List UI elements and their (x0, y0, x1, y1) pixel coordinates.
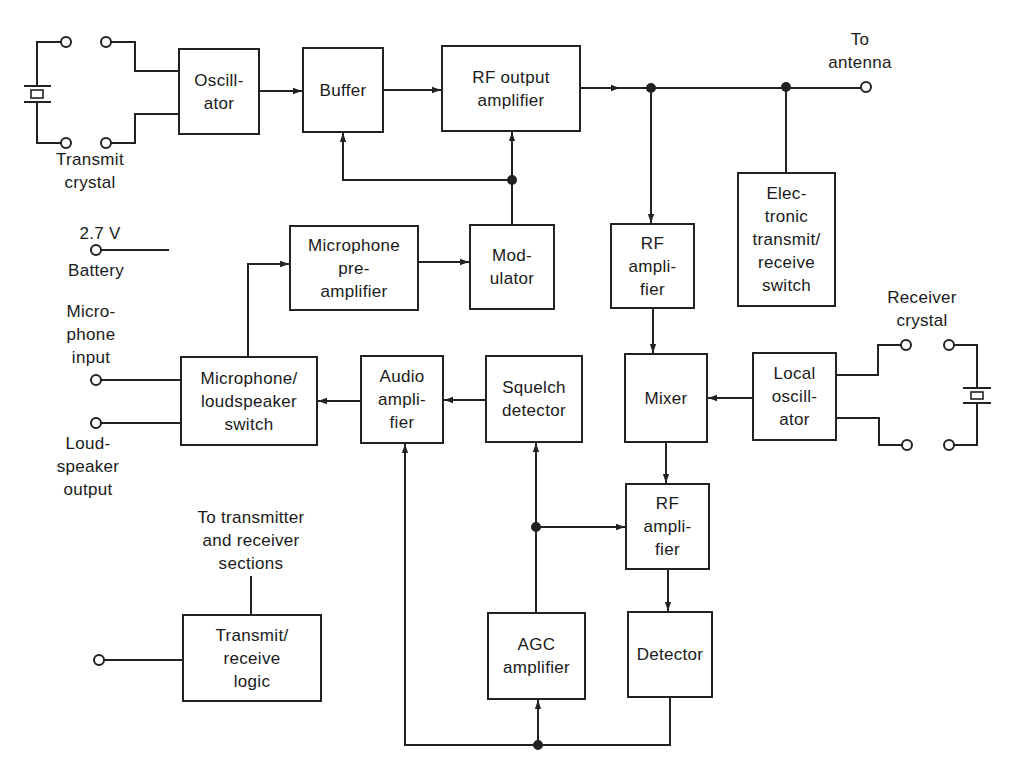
battery-terminal-icon (91, 245, 101, 255)
battery-label: Battery (50, 259, 142, 282)
loudspeaker-output-label: Loud- speaker output (42, 432, 134, 501)
mic-preamp-block: Microphone pre- amplifier (289, 225, 419, 311)
oscillator-block: Oscill- ator (178, 48, 260, 135)
to-sections-label: To transmitter and receiver sections (176, 506, 326, 575)
agc-amplifier-block: AGC amplifier (487, 612, 586, 700)
squelch-detector-block: Squelch detector (485, 355, 583, 443)
audio-amplifier-label: Audio ampli- fier (378, 365, 426, 434)
receiver-crystal-label: Receiver crystal (872, 286, 972, 332)
battery-voltage-label: 2.7 V (60, 222, 140, 245)
local-oscillator-label: Local oscill- ator (772, 362, 818, 431)
rf-amplifier-1-label: RF ampli- fier (628, 232, 676, 301)
oscillator-label: Oscill- ator (194, 69, 243, 115)
rf-amplifier-2-label: RF ampli- fier (643, 492, 691, 561)
agc-amplifier-label: AGC amplifier (503, 633, 570, 679)
audio-amplifier-block: Audio ampli- fier (360, 355, 444, 444)
microphone-input-label: Micro- phone input (45, 300, 137, 369)
rf-amplifier-2-block: RF ampli- fier (625, 483, 710, 570)
transmit-crystal-icon (24, 37, 178, 148)
loudspeaker-output-terminal-icon (91, 418, 101, 428)
detector-label: Detector (637, 643, 704, 666)
squelch-detector-label: Squelch detector (502, 376, 566, 422)
tr-logic-input-terminal-icon (94, 655, 104, 665)
mixer-block: Mixer (624, 353, 708, 443)
rf-amplifier-1-block: RF ampli- fier (610, 223, 695, 309)
buffer-block: Buffer (302, 47, 384, 133)
modulator-label: Mod- ulator (490, 244, 534, 290)
mic-preamp-label: Microphone pre- amplifier (308, 234, 400, 303)
tr-logic-label: Transmit/ receive logic (216, 624, 289, 693)
receiver-crystal-icon (837, 340, 991, 450)
rf-output-amplifier-label: RF output amplifier (472, 66, 549, 112)
antenna-terminal-icon (861, 82, 871, 92)
mixer-label: Mixer (644, 387, 687, 410)
transmit-crystal-label: Transmit crystal (40, 148, 140, 194)
tr-logic-block: Transmit/ receive logic (182, 614, 322, 702)
buffer-label: Buffer (320, 79, 367, 102)
detector-block: Detector (627, 611, 713, 698)
to-antenna-label: To antenna (810, 28, 910, 74)
electronic-tr-switch-block: Elec- tronic transmit/ receive switch (737, 172, 836, 307)
rf-output-amplifier-block: RF output amplifier (441, 45, 581, 132)
microphone-input-terminal-icon (91, 375, 101, 385)
local-oscillator-block: Local oscill- ator (752, 352, 837, 441)
modulator-block: Mod- ulator (469, 224, 555, 310)
electronic-tr-switch-label: Elec- tronic transmit/ receive switch (753, 182, 821, 297)
mic-loudspeaker-switch-label: Microphone/ loudspeaker switch (201, 367, 298, 436)
mic-loudspeaker-switch-block: Microphone/ loudspeaker switch (180, 356, 318, 446)
